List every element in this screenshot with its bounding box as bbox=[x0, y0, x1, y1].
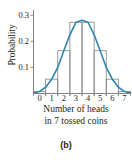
figure-panel-b: Probability 0.10.20.3 01234567 Number of… bbox=[0, 0, 132, 162]
histogram-bar bbox=[58, 51, 70, 94]
x-axis-caption-line-2: in 7 tossed coins bbox=[20, 116, 132, 128]
x-axis-tick-label: 5 bbox=[95, 94, 105, 103]
histogram-bar bbox=[94, 51, 106, 94]
x-axis-caption: Number of heads in 7 tossed coins bbox=[20, 104, 132, 127]
chart-canvas bbox=[0, 4, 132, 104]
panel-label: (b) bbox=[0, 140, 132, 150]
x-axis-tick-label: 3 bbox=[71, 94, 81, 103]
x-axis-caption-line-1: Number of heads bbox=[20, 104, 132, 116]
x-axis-tick-label: 7 bbox=[119, 94, 129, 103]
x-axis-tick-label: 0 bbox=[35, 94, 45, 103]
x-axis-tick-label: 4 bbox=[83, 94, 93, 103]
chart-plot-area: Probability 0.10.20.3 01234567 bbox=[0, 4, 132, 104]
x-axis-tick-label: 6 bbox=[107, 94, 117, 103]
x-axis-tick-label: 2 bbox=[59, 94, 69, 103]
x-axis-tick-label: 1 bbox=[47, 94, 57, 103]
histogram-bar bbox=[70, 22, 82, 93]
histogram-bar bbox=[82, 22, 94, 93]
